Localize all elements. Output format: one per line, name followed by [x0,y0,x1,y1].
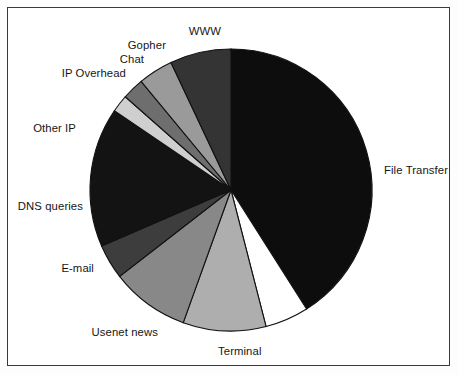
pie-label-e-mail: E-mail [0,262,94,274]
pie-label-usenet-news: Usenet news [0,326,158,338]
pie-label-gopher: Gopher [0,39,166,51]
pie-label-www: WWW [0,25,221,37]
pie-label-terminal: Terminal [218,345,262,357]
pie-label-file-transfer: File Transfer [384,164,448,176]
pie-label-chat: Chat [0,53,144,65]
pie-slices-group [90,49,372,331]
pie-label-dns-queries: DNS queries [0,200,83,212]
pie-label-other-ip: Other IP [0,122,76,134]
figure-canvas: File TransferTerminalUsenet newsE-mailDN… [0,0,459,375]
pie-label-ip-overhead: IP Overhead [0,67,126,79]
